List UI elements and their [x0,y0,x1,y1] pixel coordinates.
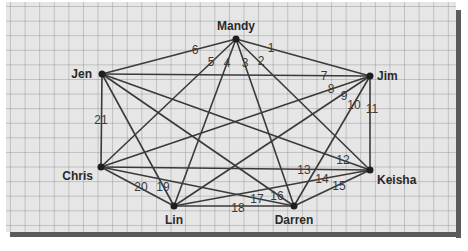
edge-label: 4 [224,56,231,70]
node-mandy [233,36,240,43]
edge-label: 17 [250,192,264,206]
edge-chris-keisha [101,167,370,170]
edge-mandy-jen [102,39,236,74]
edge-label: 13 [297,163,311,177]
node-lin [171,203,178,210]
edge-label: 1 [268,41,275,55]
node-label-mandy: Mandy [217,19,255,33]
node-darren [291,203,298,210]
node-label-jim: Jim [377,69,398,83]
diagram-canvas: 123456789101112131415161718192021 MandyJ… [0,0,468,251]
node-label-chris: Chris [62,169,93,183]
edge-label: 11 [366,102,379,116]
edge-label: 18 [231,201,245,215]
node-label-keisha: Keisha [377,173,417,187]
edge-label: 12 [336,153,350,167]
edge-mandy-jim [236,39,370,76]
edge-label: 6 [192,43,199,57]
edge-label: 21 [94,113,108,127]
edge-label: 16 [270,189,284,203]
edge-label: 19 [156,180,170,194]
edge-jen-jim [102,74,370,76]
edge-label: 15 [332,179,346,193]
node-chris [98,164,105,171]
edge-label: 7 [321,69,328,83]
complete-graph: 123456789101112131415161718192021 MandyJ… [0,0,468,251]
edge-label: 20 [134,180,148,194]
node-jim [367,73,374,80]
node-jen [99,71,106,78]
node-keisha [367,167,374,174]
edge-label: 3 [242,56,249,70]
node-label-jen: Jen [71,67,92,81]
node-label-lin: Lin [165,213,183,227]
edge-label: 2 [258,54,265,68]
node-label-darren: Darren [275,213,314,227]
edge-label: 8 [328,82,335,96]
edge-mandy-chris [101,39,236,167]
edge-label: 10 [347,98,361,112]
edge-label: 5 [208,55,215,69]
edge-label: 14 [315,172,329,186]
